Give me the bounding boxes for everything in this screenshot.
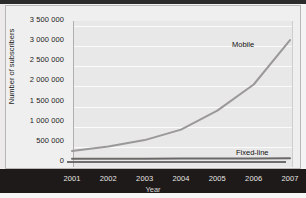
- x-tick-label: 2002: [100, 174, 117, 183]
- series-line-fixed-line: [72, 158, 290, 159]
- series-label-fixed-line: Fixed-line: [236, 148, 269, 157]
- page-edge: [0, 193, 306, 198]
- series-line-mobile: [72, 40, 290, 151]
- x-tick-label: 2004: [172, 174, 189, 183]
- x-tick-label: 2005: [209, 174, 226, 183]
- x-tick-label: 2001: [63, 174, 80, 183]
- x-tick-label: 2006: [245, 174, 262, 183]
- x-tick-label: 2003: [136, 174, 153, 183]
- x-tick-label: 2007: [281, 174, 298, 183]
- series-label-mobile: Mobile: [232, 40, 254, 49]
- chart-figure: 0500 0001 000 0001 500 0002 000 0002 500…: [0, 0, 306, 198]
